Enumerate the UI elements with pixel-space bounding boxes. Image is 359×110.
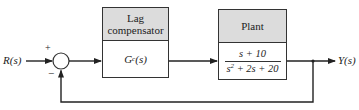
lag-title-line2: compensator [103,24,168,36]
plant-header: Plant [219,10,286,43]
plant-numerator: s + 10 [239,48,266,60]
minus-sign: − [48,67,54,79]
lag-compensator-header: Lag compensator [103,8,168,41]
signal-lines [0,0,359,110]
output-label: Y(s) [338,54,356,66]
plant-denominator: s2 + 2s + 20 [226,63,278,75]
plant-transfer-function: s + 10 s2 + 2s + 20 [219,43,286,79]
plus-sign: + [45,42,51,53]
lag-compensator-block: Lag compensator Gc(s) [102,7,169,78]
input-label: R(s) [3,54,21,66]
lag-title-line1: Lag [103,12,168,24]
lag-transfer-function: Gc(s) [103,41,168,77]
gc-argument: (s) [135,53,147,65]
plant-block: Plant s + 10 s2 + 2s + 20 [218,9,287,80]
gc-symbol: G [124,53,132,65]
plant-title: Plant [219,20,286,32]
